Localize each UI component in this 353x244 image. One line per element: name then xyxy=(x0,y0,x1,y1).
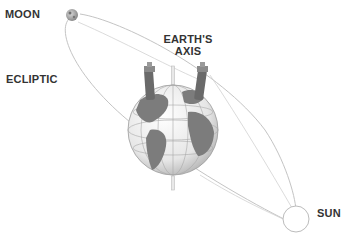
sun-icon xyxy=(283,206,309,232)
moon-icon xyxy=(66,9,78,21)
moon-label: MOON xyxy=(5,8,40,20)
ecliptic-label: ECLIPTIC xyxy=(6,73,58,85)
earths-axis-label-line1: EARTH'S xyxy=(158,33,218,45)
ecliptic-diagram: MOON ECLIPTIC EARTH'S AXIS SUN xyxy=(0,0,353,244)
earths-axis-label: EARTH'S AXIS xyxy=(158,33,218,57)
earth-globe-icon xyxy=(128,85,218,175)
sun-label: SUN xyxy=(317,207,341,219)
earths-axis-label-line2: AXIS xyxy=(158,45,218,57)
